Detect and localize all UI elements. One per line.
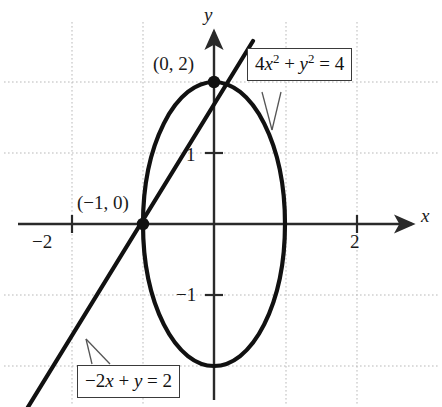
ellipse-eq-plus: + (279, 53, 299, 74)
x-axis-label: x (421, 206, 429, 225)
point-marker-0-2 (208, 76, 220, 88)
ellipse-eq-var2: y (300, 53, 308, 74)
line-label-leader (86, 339, 110, 364)
point-label-minus1-0: (−1, 0) (77, 193, 129, 212)
graph-canvas (0, 0, 442, 407)
point-label-0-2: (0, 2) (153, 54, 194, 73)
ellipse-eq-lead: 4 (255, 53, 265, 74)
ellipse-eq-equals: = 4 (315, 53, 345, 74)
point-marker-minus1-0 (137, 218, 149, 230)
x-tick-label-minus2: −2 (32, 232, 52, 251)
line-eq-var1: x (105, 370, 113, 391)
x-tick-label-2: 2 (350, 232, 360, 251)
line-eq-lead: −2 (85, 370, 105, 391)
y-tick-label-minus1: −1 (176, 285, 196, 304)
ellipse-eq-var1: x (265, 53, 273, 74)
line-eq-plus: + (114, 370, 134, 391)
line-equation-box: −2x + y = 2 (77, 365, 180, 398)
line-eq-equals: = 2 (142, 370, 172, 391)
y-axis-label: y (204, 5, 212, 24)
grid-lines (4, 22, 438, 404)
y-tick-label-1: 1 (186, 145, 196, 164)
ellipse-equation-box: 4x2 + y2 = 4 (247, 48, 352, 81)
